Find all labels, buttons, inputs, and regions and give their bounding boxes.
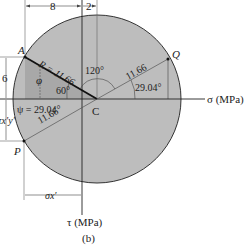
- dim-label-tau-xy: τx′y′: [0, 115, 16, 126]
- dim-label-8: 8: [50, 0, 56, 12]
- mohr-circle-diagram: 8 2 6 τx′y′ σx′ A Q P C R = 11.66 11.66 …: [0, 0, 248, 247]
- angle-label-2904: 29.04°: [135, 82, 162, 93]
- point-label-q: Q: [172, 48, 180, 60]
- angle-label-psi: ψ = 29.04°: [17, 104, 60, 115]
- arrow: [26, 5, 30, 8]
- dim-label-2: 2: [86, 0, 92, 12]
- point-label-p: P: [13, 145, 21, 157]
- angle-label-phi: φ: [36, 74, 42, 86]
- axis-label-tau: τ (MPa): [67, 216, 103, 229]
- dim-label-sigma-x: σx′: [45, 190, 57, 201]
- point-p: [23, 140, 26, 143]
- axis-label-sigma: σ (MPa): [207, 93, 244, 106]
- dim-label-6: 6: [2, 72, 8, 84]
- point-q: [167, 58, 170, 61]
- angle-label-120: 120°: [85, 65, 104, 76]
- point-label-c: C: [92, 105, 99, 117]
- arrow: [77, 5, 81, 8]
- point-label-a: A: [17, 44, 25, 56]
- figure-caption: (b): [82, 232, 95, 245]
- angle-label-60: 60°: [56, 85, 70, 96]
- arrow: [92, 5, 96, 8]
